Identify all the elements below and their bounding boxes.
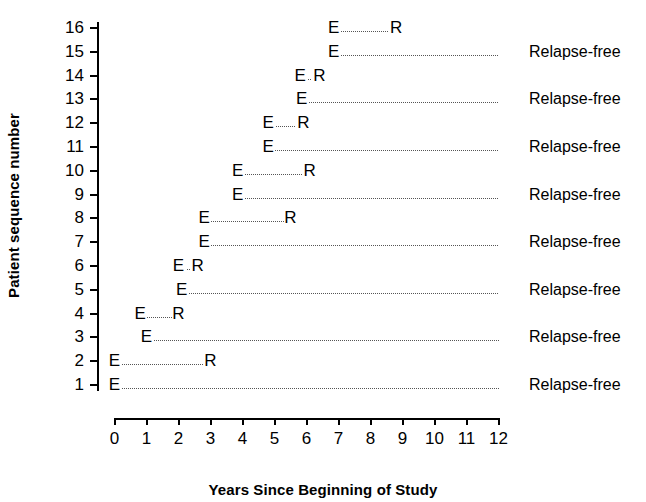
x-axis-tick-6: [306, 418, 308, 425]
x-axis-tick-9: [402, 418, 404, 425]
x-axis-tick-label-8: 8: [356, 430, 386, 447]
x-axis-tick-label-9: 9: [388, 430, 418, 447]
x-axis-tick-label-10: 10: [420, 430, 450, 447]
x-axis-tick-label-1: 1: [132, 430, 162, 447]
x-axis-tick-12: [498, 418, 500, 425]
relapse-marker: R: [303, 160, 317, 182]
followup-line: [243, 198, 499, 199]
patient-row-14: ER: [0, 65, 646, 87]
patient-row-4: ER: [0, 303, 646, 325]
followup-line: [273, 150, 498, 151]
followup-line: [145, 317, 172, 318]
followup-line: [307, 102, 499, 103]
status-label-relapse-free: Relapse-free: [529, 231, 621, 253]
x-axis-tick-3: [210, 418, 212, 425]
x-axis-tick-label-0: 0: [100, 430, 130, 447]
patient-row-10: ER: [0, 160, 646, 182]
status-label-relapse-free: Relapse-free: [529, 374, 621, 396]
x-axis-tick-8: [370, 418, 372, 425]
entry-marker: E: [327, 41, 341, 63]
patient-row-1: ERelapse-free: [0, 374, 646, 396]
relapse-marker: R: [296, 112, 310, 134]
followup-line: [273, 126, 297, 127]
x-axis-tick-label-4: 4: [228, 430, 258, 447]
x-axis-tick-7: [338, 418, 340, 425]
x-axis-tick-11: [466, 418, 468, 425]
relapse-timeline-chart: Patient sequence number 1234567891011121…: [0, 0, 646, 502]
patient-row-12: ER: [0, 112, 646, 134]
followup-line: [243, 174, 304, 175]
x-axis-tick-label-11: 11: [452, 430, 482, 447]
followup-line: [120, 388, 499, 389]
relapse-marker: R: [284, 207, 298, 229]
relapse-marker: R: [204, 350, 218, 372]
patient-row-7: ERelapse-free: [0, 231, 646, 253]
x-axis-tick-2: [178, 418, 180, 425]
entry-marker: E: [261, 112, 275, 134]
patient-row-15: ERelapse-free: [0, 41, 646, 63]
followup-line: [339, 55, 499, 56]
x-axis-tick-label-5: 5: [260, 430, 290, 447]
entry-marker: E: [108, 350, 122, 372]
entry-marker: E: [293, 65, 307, 87]
entry-marker: E: [108, 374, 122, 396]
x-axis-tick-label-7: 7: [324, 430, 354, 447]
entry-marker: E: [172, 255, 186, 277]
x-axis-tick-10: [434, 418, 436, 425]
plot-area: 12345678910111213141516 0123456789101112…: [0, 0, 646, 470]
x-axis-tick-1: [146, 418, 148, 425]
relapse-marker: R: [191, 255, 205, 277]
patient-row-2: ER: [0, 350, 646, 372]
entry-marker: E: [231, 184, 245, 206]
patient-row-8: ER: [0, 207, 646, 229]
status-label-relapse-free: Relapse-free: [529, 184, 621, 206]
patient-row-9: ERelapse-free: [0, 184, 646, 206]
x-axis-tick-5: [274, 418, 276, 425]
followup-line: [209, 245, 498, 246]
status-label-relapse-free: Relapse-free: [529, 41, 621, 63]
followup-line: [209, 221, 284, 222]
entry-marker: E: [197, 207, 211, 229]
x-axis-title: Years Since Beginning of Study: [0, 481, 646, 498]
status-label-relapse-free: Relapse-free: [529, 136, 621, 158]
patient-row-5: ERelapse-free: [0, 279, 646, 301]
entry-marker: E: [295, 88, 309, 110]
x-axis-tick-label-12: 12: [484, 430, 514, 447]
entry-marker: E: [231, 160, 245, 182]
entry-marker: E: [140, 326, 154, 348]
patient-row-3: ERelapse-free: [0, 326, 646, 348]
patient-row-11: ERelapse-free: [0, 136, 646, 158]
entry-marker: E: [175, 279, 189, 301]
followup-line: [120, 364, 205, 365]
entry-marker: E: [327, 17, 341, 39]
relapse-marker: R: [312, 65, 326, 87]
x-axis-tick-label-3: 3: [196, 430, 226, 447]
patient-row-16: ER: [0, 17, 646, 39]
x-axis-tick-0: [114, 418, 116, 425]
status-label-relapse-free: Relapse-free: [529, 326, 621, 348]
status-label-relapse-free: Relapse-free: [529, 88, 621, 110]
relapse-marker: R: [172, 303, 186, 325]
followup-line: [152, 340, 499, 341]
entry-marker: E: [261, 136, 275, 158]
followup-line: [339, 31, 390, 32]
x-axis-tick-label-2: 2: [164, 430, 194, 447]
x-axis-tick-4: [242, 418, 244, 425]
patient-row-6: ER: [0, 255, 646, 277]
status-label-relapse-free: Relapse-free: [529, 279, 621, 301]
relapse-marker: R: [389, 17, 403, 39]
entry-marker: E: [197, 231, 211, 253]
entry-marker: E: [133, 303, 147, 325]
x-axis-tick-label-6: 6: [292, 430, 322, 447]
followup-line: [187, 293, 499, 294]
patient-row-13: ERelapse-free: [0, 88, 646, 110]
